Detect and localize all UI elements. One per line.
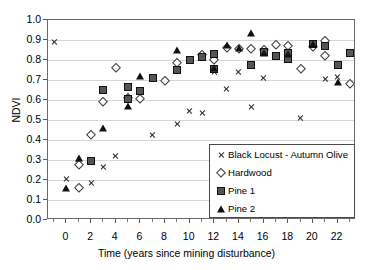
- data-point: [322, 76, 329, 83]
- x-tick-mark: [115, 219, 116, 223]
- x-tick-mark-minor: [152, 219, 153, 222]
- x-tick-mark: [287, 219, 288, 223]
- data-point: [223, 41, 231, 48]
- data-point: [63, 176, 70, 183]
- data-point: [210, 50, 218, 58]
- data-point: [297, 114, 304, 121]
- x-tick-label: 12: [207, 231, 219, 241]
- x-tick-mark-minor: [349, 219, 350, 222]
- legend-item-cross[interactable]: Black Locust - Autumn Olive: [210, 146, 354, 163]
- y-axis-title: NDVI: [10, 80, 22, 140]
- data-point: [260, 75, 267, 82]
- x-tick-mark: [164, 219, 165, 223]
- x-tick-mark: [337, 219, 338, 223]
- data-point: [346, 49, 354, 57]
- y-tick-label: 1.0: [26, 14, 41, 24]
- x-tick-label: 22: [331, 231, 343, 241]
- x-tick-label: 6: [136, 231, 142, 241]
- data-point: [247, 30, 255, 37]
- data-point: [186, 107, 193, 114]
- y-tick-label: 0.4: [26, 134, 41, 144]
- x-tick-label: 8: [161, 231, 167, 241]
- data-point: [99, 86, 107, 94]
- legend-label: Pine 1: [228, 185, 255, 196]
- x-tick-mark-minor: [53, 219, 54, 222]
- x-tick-mark-minor: [324, 219, 325, 222]
- data-point: [112, 153, 119, 160]
- x-tick-mark: [65, 219, 66, 223]
- gridline: [48, 140, 354, 141]
- x-tick-mark: [238, 219, 239, 223]
- x-tick-mark-minor: [78, 219, 79, 222]
- x-axis-title: Time (years since mining disturbance): [0, 247, 373, 259]
- data-point: [334, 61, 342, 69]
- data-point: [186, 56, 194, 64]
- x-tick-mark-minor: [176, 219, 177, 222]
- data-point: [272, 52, 280, 60]
- legend: Black Locust - Autumn OliveHardwoodPine …: [209, 144, 355, 218]
- x-axis: 0246810121416182022: [0, 219, 373, 249]
- x-tick-mark-minor: [102, 219, 103, 222]
- data-point: [136, 72, 144, 79]
- data-point: [223, 85, 230, 92]
- data-point: [100, 163, 107, 170]
- x-tick-mark-minor: [226, 219, 227, 222]
- data-point: [111, 63, 121, 73]
- data-point: [124, 83, 132, 91]
- x-tick-mark-minor: [127, 219, 128, 222]
- x-tick-mark-minor: [300, 219, 301, 222]
- data-point: [198, 53, 206, 61]
- legend-item-square[interactable]: Pine 1: [210, 182, 354, 199]
- data-point: [136, 87, 144, 95]
- data-point: [246, 44, 256, 54]
- data-point: [124, 103, 132, 110]
- legend-label: Hardwood: [228, 167, 272, 178]
- x-tick-mark: [213, 219, 214, 223]
- data-point: [135, 94, 145, 104]
- data-point: [321, 42, 329, 50]
- y-axis: 0.00.10.20.30.40.50.60.70.80.91.0: [0, 0, 47, 240]
- data-point: [51, 39, 58, 46]
- x-tick-mark-minor: [275, 219, 276, 222]
- y-tick-label: 0.8: [26, 54, 41, 64]
- legend-item-triangle[interactable]: Pine 2: [210, 200, 354, 217]
- y-tick-label: 0.7: [26, 74, 41, 84]
- y-tick-label: 0.2: [26, 174, 41, 184]
- data-point: [248, 103, 255, 110]
- data-point: [173, 47, 181, 54]
- legend-marker: [216, 203, 227, 214]
- x-tick-label: 0: [63, 231, 69, 241]
- gridline: [48, 100, 354, 101]
- data-point: [173, 66, 181, 74]
- x-tick-mark-minor: [250, 219, 251, 222]
- data-point: [99, 124, 107, 131]
- data-point: [98, 97, 108, 107]
- data-point: [235, 45, 243, 52]
- square-marker-icon: [217, 187, 225, 195]
- data-point: [235, 68, 242, 75]
- data-point: [75, 155, 83, 162]
- data-point: [295, 64, 305, 74]
- data-point: [260, 49, 268, 56]
- ndvi-scatter-chart: 0.00.10.20.30.40.50.60.70.80.91.0 NDVI 0…: [0, 0, 373, 270]
- data-point: [174, 120, 181, 127]
- y-tick-label: 0.9: [26, 34, 41, 44]
- legend-label: Pine 2: [228, 203, 255, 214]
- legend-item-diamond[interactable]: Hardwood: [210, 164, 354, 181]
- data-point: [199, 110, 206, 117]
- x-tick-label: 14: [232, 231, 244, 241]
- data-point: [247, 61, 255, 69]
- diamond-marker-icon: [216, 168, 226, 178]
- x-tick-mark: [312, 219, 313, 223]
- triangle-marker-icon: [217, 206, 225, 213]
- data-point: [160, 76, 170, 86]
- data-point: [149, 132, 156, 139]
- x-tick-label: 18: [281, 231, 293, 241]
- y-tick-label: 0.1: [26, 194, 41, 204]
- legend-marker: [216, 185, 227, 196]
- gridline: [48, 120, 354, 121]
- x-tick-mark: [263, 219, 264, 223]
- data-point: [334, 78, 342, 85]
- data-point: [149, 74, 157, 82]
- y-tick-label: 0.3: [26, 154, 41, 164]
